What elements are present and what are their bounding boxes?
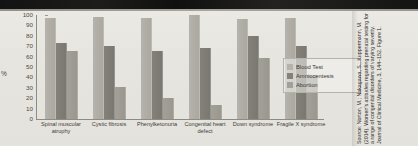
y-axis-tick-label: 30 xyxy=(11,85,33,91)
chart-legend: Blood TestAmniocentesisAbortion xyxy=(283,58,361,93)
bar xyxy=(93,17,104,119)
bar-groups xyxy=(37,15,325,119)
bar xyxy=(67,51,78,119)
x-axis-line xyxy=(36,119,324,120)
y-axis-tick-label: 20 xyxy=(11,95,33,101)
bar xyxy=(237,19,248,119)
bar xyxy=(152,51,163,119)
legend-item-label: Abortion xyxy=(296,82,318,88)
source-citation-text: Source: Norton, M.; Nakagawa, S.; Kupper… xyxy=(356,12,382,144)
x-axis-category-labels: Spinal muscular atrophyCystic fibrosisPh… xyxy=(37,121,329,145)
bar xyxy=(56,43,67,119)
y-axis-ticks: 1009080706050403020100 xyxy=(11,11,35,123)
x-axis-category-label: Fragile X syndrome xyxy=(273,121,329,128)
y-axis-tick-label: 0 xyxy=(11,116,33,122)
legend-swatch-icon xyxy=(287,82,293,88)
scan-artifact-band xyxy=(0,0,418,9)
legend-item[interactable]: Abortion xyxy=(287,80,357,89)
legend-swatch-icon xyxy=(287,73,293,79)
y-axis-tick-label: 90 xyxy=(11,22,33,28)
bar xyxy=(45,18,56,119)
legend-item-label: Blood Test xyxy=(296,64,323,70)
y-axis-label: % xyxy=(1,70,7,77)
y-axis-tick-label: 100 xyxy=(11,12,33,18)
legend-item[interactable]: Blood Test xyxy=(287,62,357,71)
y-axis-tick-label: 40 xyxy=(11,74,33,80)
bar xyxy=(259,58,270,119)
y-axis-tick-label: 60 xyxy=(11,54,33,60)
bar xyxy=(163,98,174,119)
bar-group xyxy=(45,15,78,119)
legend-item-label: Amniocentesis xyxy=(296,73,334,79)
y-axis-tick-label: 70 xyxy=(11,43,33,49)
y-axis-tick-label: 50 xyxy=(11,64,33,70)
bar-group xyxy=(189,15,222,119)
legend-swatch-icon xyxy=(287,64,293,70)
bar-group xyxy=(141,15,174,119)
bar xyxy=(189,15,200,119)
y-axis-tick-label: 80 xyxy=(11,33,33,39)
bar xyxy=(200,48,211,119)
bar xyxy=(141,18,152,119)
bar-group xyxy=(93,15,126,119)
scanned-figure-page: % 1009080706050403020100 Spinal muscular… xyxy=(0,0,418,146)
bar xyxy=(211,105,222,119)
legend-item[interactable]: Amniocentesis xyxy=(287,71,357,80)
bar xyxy=(115,87,126,119)
source-citation: Source: Norton, M.; Nakagawa, S.; Kupper… xyxy=(356,10,418,146)
y-axis-tick-label: 10 xyxy=(11,106,33,112)
bar xyxy=(104,46,115,119)
bar-group xyxy=(237,15,270,119)
bar xyxy=(248,36,259,119)
